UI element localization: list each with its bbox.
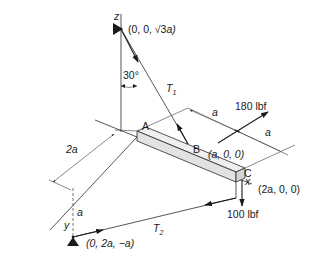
angle-arrow-left [121,84,125,88]
dim-2a-label: 2a [65,143,78,155]
angle-label: 30° [123,69,139,81]
x-neg-line [95,120,137,137]
dim-a-right-label: a [265,126,271,138]
y-axis-label: y [63,219,70,231]
point-b-label: B [193,143,200,155]
point-c-label: C [244,167,252,179]
z-axis-label: z [113,10,120,22]
point-b-coord: (a, 0, 0) [208,148,244,160]
dim-ext-a [146,108,188,127]
force-180-arrow [218,112,268,143]
dim-a-top-label: a [212,106,218,118]
statics-diagram: z (0, 0, √3a) T1 30° y x A B (a, 0, 0) C… [0,0,313,265]
dim-ext-c [245,145,295,168]
dim-2a-line [53,134,114,182]
dim-2a-ext-top [115,130,137,131]
t2-arrow-bottom [73,230,103,237]
point-c-coord: (2a, 0, 0) [258,183,300,195]
bottom-support-coord: (0, 2a, −a) [86,237,134,249]
bottom-support-icon [67,237,79,246]
y-axis-line [50,137,137,230]
top-support-coord: (0, 0, √3a) [128,23,176,35]
force-100-label: 100 lbf [227,208,259,220]
force-180-label: 180 lbf [235,100,267,112]
angle-arrow-right [133,84,137,88]
diagram-canvas: z (0, 0, √3a) T1 30° y x A B (a, 0, 0) C… [0,0,313,265]
t2-arrow-c [205,198,236,205]
dim-a-vertical-label: a [77,206,83,218]
dim-2a-ext-bottom [49,180,71,190]
t2-label: T2 [153,222,163,236]
t1-label: T1 [166,82,176,96]
